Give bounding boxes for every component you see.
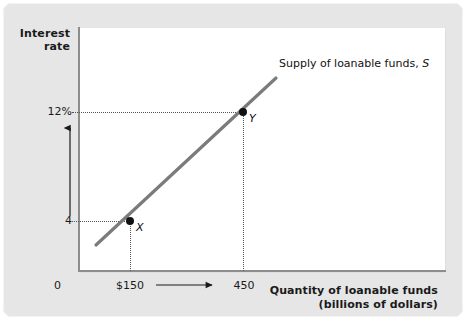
x-axis-title: Quantity of loanable funds (billions of … <box>238 284 438 311</box>
data-point-x-label: X <box>136 221 144 234</box>
figure-container: Interest rate Quantity of loanable funds… <box>0 0 468 322</box>
supply-curve-label: Supply of loanable funds, S <box>279 57 429 70</box>
y-axis-line <box>78 27 80 272</box>
guideline-vertical-150 <box>130 221 131 271</box>
supply-curve-label-symbol: S <box>422 57 429 70</box>
guideline-horizontal-12 <box>72 112 244 113</box>
origin-label: 0 <box>54 279 61 292</box>
y-axis-title-line2: rate <box>8 40 70 53</box>
y-tick-label-4: 4 <box>28 214 72 227</box>
y-tick-label-12: 12% <box>28 105 72 118</box>
x-axis-title-line2: (billions of dollars) <box>238 298 438 312</box>
x-tick-label-150: $150 <box>108 279 152 292</box>
x-tick-label-450: 450 <box>222 279 266 292</box>
guideline-horizontal-4 <box>72 221 131 222</box>
guideline-vertical-450 <box>243 112 244 271</box>
data-point-y <box>239 108 247 116</box>
x-axis-line <box>78 270 446 272</box>
supply-curve-label-text: Supply of loanable funds, <box>279 57 422 70</box>
y-axis-title-line1: Interest <box>8 27 70 40</box>
data-point-x <box>126 217 134 225</box>
y-axis-title: Interest rate <box>8 27 70 53</box>
data-point-y-label: Y <box>249 112 256 125</box>
x-axis-title-line1: Quantity of loanable funds <box>238 284 438 298</box>
